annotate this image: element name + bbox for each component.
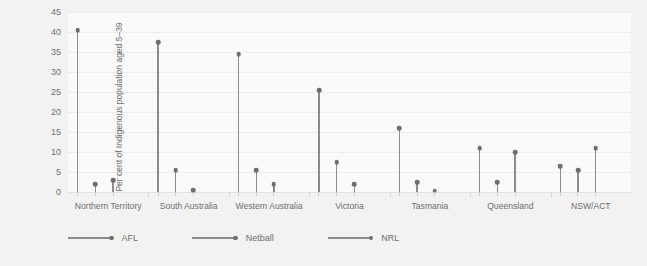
data-point-netball[interactable] — [173, 168, 178, 173]
x-axis-minor-tick — [273, 192, 274, 196]
legend-label: NRL — [381, 233, 399, 243]
legend-label: AFL — [122, 233, 139, 243]
data-point-netball[interactable] — [334, 160, 339, 165]
data-point-netball[interactable] — [415, 180, 420, 185]
gridline — [68, 192, 631, 193]
x-axis-minor-tick — [497, 192, 498, 196]
x-axis-category-label: Queensland — [487, 201, 533, 211]
legend-line-icon — [192, 237, 234, 238]
y-axis-tick-label: 40 — [51, 27, 61, 37]
data-stem-afl — [560, 166, 561, 192]
x-axis-minor-tick — [399, 192, 400, 196]
x-axis-category-label: Victoria — [335, 201, 364, 211]
x-axis-minor-tick — [560, 192, 561, 196]
plot-area: 051015202530354045 Northern TerritorySou… — [68, 12, 631, 192]
x-axis-category-label: Western Australia — [235, 201, 302, 211]
x-axis-minor-tick — [318, 192, 319, 196]
y-axis-title: Per cent of Indigenous population aged 5… — [52, 0, 82, 12]
x-axis-category-label: NSW/ACT — [571, 201, 611, 211]
gridline — [68, 12, 631, 13]
y-axis-title-text: Per cent of Indigenous population aged 5… — [114, 17, 125, 197]
gridline — [68, 172, 631, 173]
x-axis-category-divider — [148, 192, 149, 197]
y-axis-tick-label: 25 — [51, 87, 61, 97]
data-stem-netball — [577, 170, 578, 192]
data-point-nrl[interactable] — [352, 182, 357, 187]
data-stem-afl — [318, 90, 319, 192]
data-point-afl[interactable] — [156, 40, 161, 45]
data-stem-afl — [479, 148, 480, 192]
x-axis-category-label: South Australia — [160, 201, 218, 211]
x-axis-minor-tick — [354, 192, 355, 196]
x-axis-minor-tick — [515, 192, 516, 196]
gridline — [68, 52, 631, 53]
x-axis-category-label: Northern Territory — [75, 201, 142, 211]
legend-dot-icon — [109, 236, 114, 241]
y-axis-tick-label: 0 — [56, 187, 61, 197]
x-axis-minor-tick — [577, 192, 578, 196]
x-axis-minor-tick — [238, 192, 239, 196]
x-axis-minor-tick — [256, 192, 257, 196]
data-stem-afl — [399, 128, 400, 192]
y-axis-tick-label: 15 — [51, 127, 61, 137]
data-point-afl[interactable] — [75, 28, 80, 33]
x-axis-minor-tick — [158, 192, 159, 196]
y-axis-tick-label: 30 — [51, 67, 61, 77]
data-stem-nrl — [595, 148, 596, 192]
data-stem-netball — [175, 170, 176, 192]
gridline — [68, 92, 631, 93]
x-axis-minor-tick — [336, 192, 337, 196]
data-stem-nrl — [514, 152, 515, 192]
legend-dot-icon — [369, 236, 374, 241]
y-axis-tick-label: 35 — [51, 47, 61, 57]
x-axis-minor-tick — [95, 192, 96, 196]
x-axis-category-divider — [551, 192, 552, 197]
x-axis-category-divider — [470, 192, 471, 197]
gridline — [68, 152, 631, 153]
data-point-nrl[interactable] — [513, 150, 518, 155]
data-stem-afl — [157, 42, 158, 192]
data-stem-netball — [336, 162, 337, 192]
data-point-afl[interactable] — [558, 164, 563, 169]
y-axis-tick-label: 5 — [56, 167, 61, 177]
gridline — [68, 72, 631, 73]
data-point-netball[interactable] — [254, 168, 259, 173]
legend-item-netball[interactable]: Netball — [192, 233, 274, 243]
gridline — [68, 112, 631, 113]
chart-container: 051015202530354045 Northern TerritorySou… — [0, 0, 647, 266]
data-stem-afl — [77, 30, 78, 192]
data-point-afl[interactable] — [317, 88, 322, 93]
data-stem-netball — [256, 170, 257, 192]
x-axis-minor-tick — [595, 192, 596, 196]
x-axis-category-divider — [309, 192, 310, 197]
legend-line-icon — [68, 237, 110, 238]
data-point-nrl[interactable] — [272, 182, 277, 187]
data-point-nrl[interactable] — [593, 146, 598, 151]
data-point-netball[interactable] — [576, 168, 581, 173]
x-axis-minor-tick — [193, 192, 194, 196]
x-axis-category-divider — [229, 192, 230, 197]
data-point-afl[interactable] — [397, 126, 402, 131]
x-axis-category-label: Tasmania — [412, 201, 449, 211]
data-point-netball[interactable] — [495, 180, 500, 185]
data-stem-afl — [238, 54, 239, 192]
x-axis-category-divider — [390, 192, 391, 197]
x-axis-minor-tick — [175, 192, 176, 196]
x-axis-minor-tick — [479, 192, 480, 196]
x-axis-minor-tick — [77, 192, 78, 196]
data-point-netball[interactable] — [93, 182, 98, 187]
y-axis-tick-label: 10 — [51, 147, 61, 157]
legend-item-nrl[interactable]: NRL — [328, 233, 400, 243]
chart-legend: AFLNetballNRL — [68, 228, 453, 248]
y-axis-tick-label: 20 — [51, 107, 61, 117]
x-axis-minor-tick — [417, 192, 418, 196]
legend-line-icon — [328, 237, 370, 238]
legend-item-afl[interactable]: AFL — [68, 233, 138, 243]
gridline — [68, 32, 631, 33]
legend-dot-icon — [233, 236, 238, 241]
data-point-afl[interactable] — [477, 146, 482, 151]
legend-label: Netball — [246, 233, 274, 243]
x-axis-minor-tick — [434, 192, 435, 196]
gridline — [68, 132, 631, 133]
data-point-afl[interactable] — [236, 52, 241, 57]
